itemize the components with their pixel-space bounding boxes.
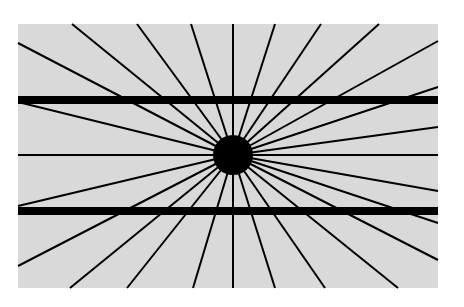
- upper-bar: [18, 96, 438, 104]
- hering-illusion-figure: [0, 0, 464, 307]
- lower-bar: [18, 207, 438, 215]
- center-disc: [213, 135, 253, 175]
